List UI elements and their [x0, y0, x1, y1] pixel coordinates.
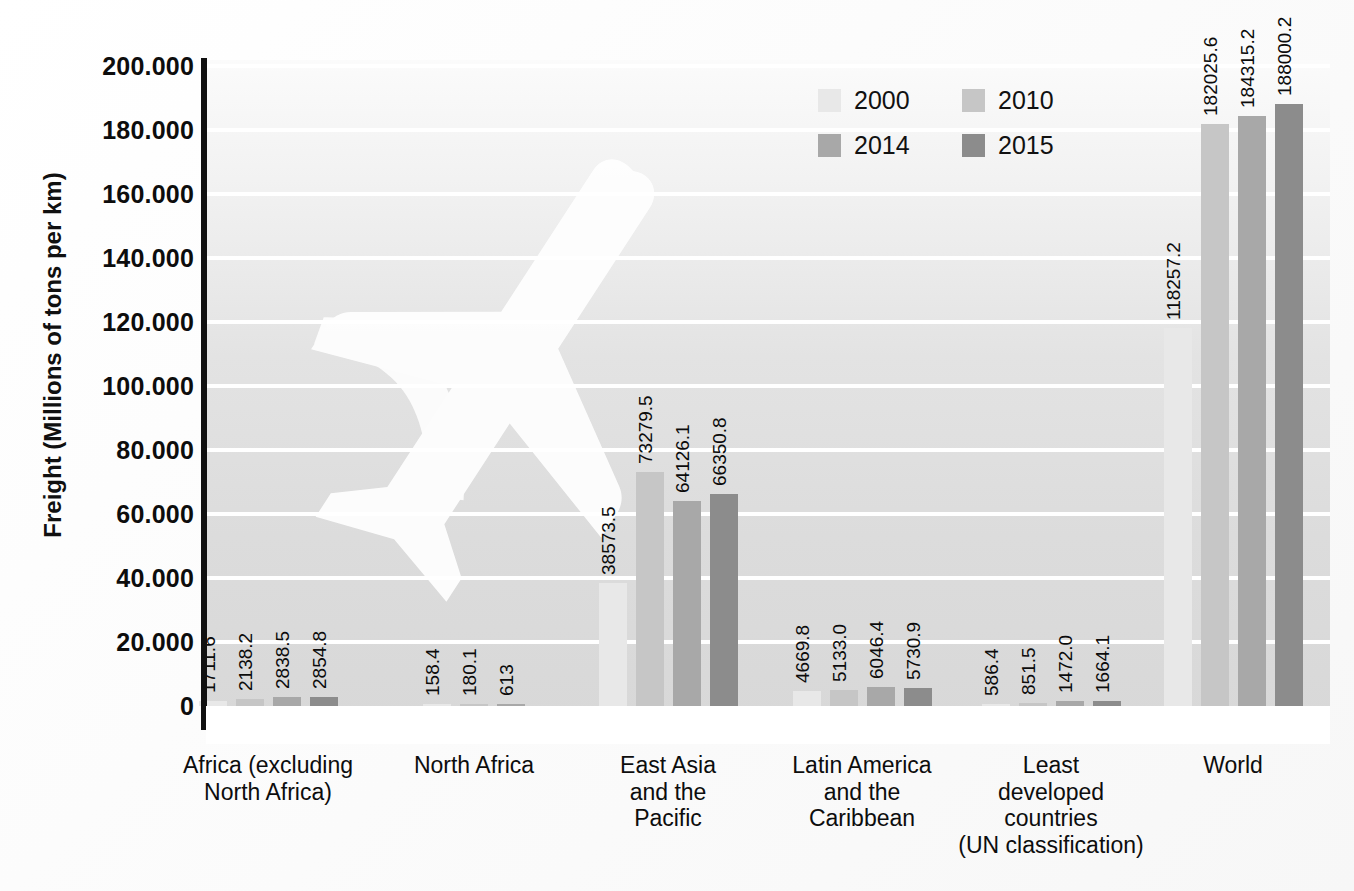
bar-value-label: 5730.9	[903, 622, 925, 680]
y-tick-label: 60.000	[44, 500, 194, 529]
gridline	[206, 512, 1330, 516]
bar-value-label: 1472.0	[1055, 635, 1077, 693]
bar[interactable]	[793, 691, 821, 706]
category-label-line: developed	[936, 779, 1166, 806]
y-tick-label: 100.000	[44, 372, 194, 401]
bar[interactable]	[904, 688, 932, 706]
category-label-line: and the	[762, 779, 962, 806]
bar[interactable]	[1201, 124, 1229, 706]
category-label-line: World	[1158, 752, 1308, 779]
bar[interactable]	[1275, 104, 1303, 706]
y-tick-label: 140.000	[44, 244, 194, 273]
category-label-line: Pacific	[583, 805, 753, 832]
bar-value-label: 1664.1	[1092, 635, 1114, 693]
y-axis-title-text: Freight (Millions of tons per km)	[39, 172, 67, 537]
legend-label: 2010	[998, 86, 1054, 115]
category-label-line: Africa (excluding	[153, 752, 383, 779]
category-label-line: North Africa)	[153, 779, 383, 806]
bar-value-label: 586.4	[981, 648, 1003, 696]
bar[interactable]	[273, 697, 301, 706]
bar-value-label: 73279.5	[635, 395, 657, 464]
legend-label: 2015	[998, 131, 1054, 160]
bar[interactable]	[599, 583, 627, 706]
legend-color-swatch	[962, 89, 985, 112]
x-axis-category-label: World	[1158, 752, 1308, 779]
category-label-line: and the	[583, 779, 753, 806]
bar[interactable]	[1238, 116, 1266, 706]
gridline	[206, 192, 1330, 196]
gridline	[206, 320, 1330, 324]
legend: 2000201020142015	[818, 86, 1088, 160]
x-axis-category-label: East Asiaand thePacific	[583, 752, 753, 832]
airplane-watermark-icon	[206, 60, 1330, 720]
bar-value-label: 4669.8	[792, 625, 814, 683]
bar[interactable]	[710, 494, 738, 706]
bar-value-label: 118257.2	[1163, 242, 1185, 320]
bar-chart: Freight (Millions of tons per km) 200.00…	[0, 0, 1354, 891]
bar-value-label: 2838.5	[272, 631, 294, 689]
legend-item-2010[interactable]: 2010	[962, 86, 1088, 115]
bar-value-label: 184315.2	[1237, 29, 1259, 108]
bar-value-label: 2138.2	[235, 633, 257, 691]
gridline	[206, 448, 1330, 452]
y-tick-label: 180.000	[44, 116, 194, 145]
category-label-line: East Asia	[583, 752, 753, 779]
category-label-line: (UN classification)	[936, 832, 1166, 859]
bar-value-label: 188000.2	[1274, 17, 1296, 96]
bar[interactable]	[830, 690, 858, 706]
legend-color-swatch	[818, 134, 841, 157]
bar-value-label: 66350.8	[709, 417, 731, 486]
zero-baseline-band	[206, 706, 1330, 744]
bar-value-label: 180.1	[459, 648, 481, 696]
gridline	[206, 64, 1330, 68]
gridline	[206, 384, 1330, 388]
bar-value-label: 613	[496, 664, 518, 696]
bar-value-label: 158.4	[422, 648, 444, 696]
gridline	[206, 256, 1330, 260]
y-tick-label: 80.000	[44, 436, 194, 465]
bar[interactable]	[236, 699, 264, 706]
gridline	[206, 576, 1330, 580]
y-tick-label: 0	[44, 692, 194, 721]
bar[interactable]	[673, 501, 701, 706]
plot-area: 1711.62138.22838.52854.8158.4180.1613385…	[206, 60, 1330, 720]
y-tick-label: 40.000	[44, 564, 194, 593]
legend-label: 2000	[854, 86, 910, 115]
bar-value-label: 5133.0	[829, 623, 851, 681]
category-label-line: Caribbean	[762, 805, 962, 832]
category-label-line: North Africa	[384, 752, 564, 779]
y-tick-label: 120.000	[44, 308, 194, 337]
gridline	[206, 640, 1330, 644]
x-axis-category-label: Africa (excludingNorth Africa)	[153, 752, 383, 805]
bar-value-label: 64126.1	[672, 424, 694, 493]
x-axis-category-label: Latin Americaand theCaribbean	[762, 752, 962, 832]
x-axis-category-label: North Africa	[384, 752, 564, 779]
bar-value-label: 851.5	[1018, 648, 1040, 696]
category-label-line: countries	[936, 805, 1166, 832]
x-axis-category-label: Leastdevelopedcountries(UN classificatio…	[936, 752, 1166, 859]
legend-item-2015[interactable]: 2015	[962, 131, 1088, 160]
bar[interactable]	[636, 472, 664, 706]
y-tick-label: 200.000	[44, 52, 194, 81]
category-label-line: Least	[936, 752, 1166, 779]
y-tick-label: 20.000	[44, 628, 194, 657]
legend-color-swatch	[962, 134, 985, 157]
bar-value-label: 6046.4	[866, 621, 888, 679]
y-axis-line	[201, 58, 207, 730]
bar[interactable]	[1164, 328, 1192, 706]
bar[interactable]	[310, 697, 338, 706]
bar-value-label: 182025.6	[1200, 36, 1222, 115]
legend-label: 2014	[854, 131, 910, 160]
category-label-line: Latin America	[762, 752, 962, 779]
bar[interactable]	[867, 687, 895, 706]
legend-color-swatch	[818, 89, 841, 112]
legend-item-2000[interactable]: 2000	[818, 86, 944, 115]
bar-value-label: 38573.5	[598, 506, 620, 575]
bar-value-label: 2854.8	[309, 631, 331, 689]
legend-item-2014[interactable]: 2014	[818, 131, 944, 160]
gridline	[206, 128, 1330, 132]
y-tick-label: 160.000	[44, 180, 194, 209]
